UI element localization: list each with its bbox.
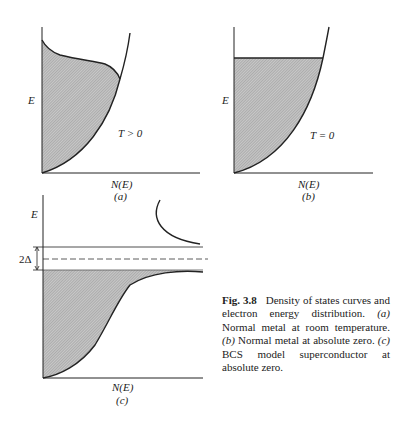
- panel-a-sublabel: (a): [114, 190, 127, 203]
- figure-number: Fig. 3.8: [222, 294, 257, 306]
- panel-c-occupied-fill: [43, 270, 203, 378]
- panel-c: 2Δ E N(E) (c): [19, 195, 208, 407]
- figure-caption: Fig. 3.8 Density of states curves and el…: [222, 294, 390, 374]
- panel-c-x-label: N(E): [111, 381, 134, 394]
- panel-c-gap-label: 2Δ: [19, 253, 32, 265]
- panel-b: E T = 0 N(E) (b): [221, 27, 373, 203]
- panel-c-y-label: E: [30, 208, 38, 220]
- panel-b-temperature-annotation: T = 0: [310, 129, 335, 141]
- panel-a-y-label: E: [27, 94, 35, 106]
- caption-text-a: Normal metal at room temperature.: [222, 321, 390, 333]
- caption-tag-c: (c): [378, 334, 390, 346]
- panel-b-sublabel: (b): [302, 190, 315, 203]
- panel-b-occupied-fill: [234, 58, 323, 173]
- panel-a: E T > 0 N(E) (a): [27, 27, 200, 203]
- caption-tag-a: (a): [377, 307, 390, 319]
- caption-text-c: BCS model superconductor at absolute zer…: [222, 348, 390, 373]
- panel-c-upper-density-curve: [156, 200, 200, 244]
- panel-c-sublabel: (c): [116, 394, 129, 407]
- panel-b-y-label: E: [221, 94, 229, 106]
- caption-text-b: Normal metal at absolute zero.: [238, 334, 375, 346]
- panel-a-temperature-annotation: T > 0: [118, 127, 143, 139]
- caption-tag-b: (b): [222, 334, 235, 346]
